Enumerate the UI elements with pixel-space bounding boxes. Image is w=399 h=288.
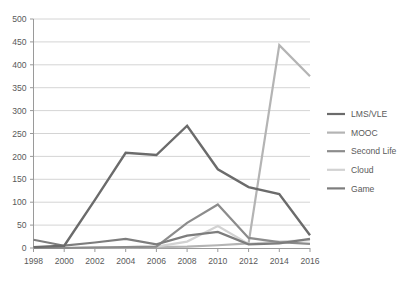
x-axis-tick-label: 2008 bbox=[178, 256, 197, 266]
x-axis-tick-label: 2016 bbox=[300, 256, 319, 266]
legend-label-cloud: Cloud bbox=[351, 165, 374, 175]
y-axis-tick-label: 150 bbox=[12, 174, 27, 184]
chart-canvas: 050100150200250300350400450500 199820002… bbox=[0, 0, 399, 288]
x-axis-tick-label: 2014 bbox=[270, 256, 289, 266]
legend-label-second-life: Second Life bbox=[351, 146, 397, 156]
y-axis-tick-label: 0 bbox=[22, 243, 27, 253]
y-axis-tick-label: 250 bbox=[12, 129, 27, 139]
x-axis-tick-label: 2002 bbox=[85, 256, 104, 266]
x-axis-tick-label: 1998 bbox=[24, 256, 43, 266]
x-axis-tick-label: 2000 bbox=[55, 256, 74, 266]
y-axis-tick-label: 100 bbox=[12, 197, 27, 207]
legend-label-game: Game bbox=[351, 184, 375, 194]
y-axis-tick-label: 450 bbox=[12, 37, 27, 47]
y-axis-tick-label: 400 bbox=[12, 60, 27, 70]
y-axis-tick-label: 300 bbox=[12, 106, 27, 116]
y-axis-tick-label: 50 bbox=[17, 220, 27, 230]
x-axis-tick-label: 2004 bbox=[116, 256, 135, 266]
legend-label-lms-vle: LMS/VLE bbox=[351, 109, 388, 119]
y-axis-tick-label: 200 bbox=[12, 152, 27, 162]
x-axis-tick-label: 2006 bbox=[147, 256, 166, 266]
line-chart-figure: 050100150200250300350400450500 199820002… bbox=[0, 0, 399, 288]
y-axis-tick-label: 350 bbox=[12, 83, 27, 93]
x-axis-tick-label: 2010 bbox=[208, 256, 227, 266]
legend-label-mooc: MOOC bbox=[351, 128, 378, 138]
x-axis-tick-label: 2012 bbox=[239, 256, 258, 266]
y-axis-tick-label: 500 bbox=[12, 14, 27, 24]
